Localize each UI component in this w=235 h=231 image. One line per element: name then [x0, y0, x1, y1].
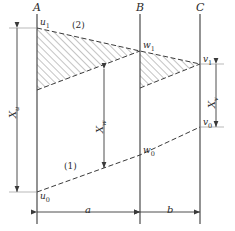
point-label-v0-sub: 0: [208, 122, 212, 130]
station-label-C: C: [196, 2, 204, 13]
point-label-v1: v1: [203, 55, 212, 66]
point-label-w1: w1: [143, 41, 155, 52]
dimension-label-Xu-sub: u: [13, 107, 21, 111]
dimension-label-a: a: [85, 205, 91, 215]
dimension-label-Xv: Xv: [207, 97, 220, 108]
dimension-label-Xu-base: X: [7, 111, 18, 118]
station-label-B: B: [136, 2, 144, 13]
technical-figure: A B C u1 u0 w1 w0 v1 v0 (1) (2) Xu Xw Xv…: [0, 0, 235, 231]
dimension-label-Xw: Xw: [95, 120, 108, 133]
dimension-label-b: b: [167, 205, 173, 215]
dimension-label-Xw-base: X: [94, 126, 105, 133]
curve-1-lower: [37, 127, 200, 192]
hatched-region-BC: [140, 51, 200, 88]
point-label-w0-sub: 0: [151, 150, 155, 158]
curve-label-1: (1): [64, 162, 77, 171]
point-label-w1-sub: 1: [151, 45, 155, 53]
point-label-w0-base: w: [143, 145, 151, 155]
point-label-w0: w0: [143, 146, 155, 157]
diagram-canvas: [0, 0, 235, 231]
point-label-u0-sub: 0: [46, 196, 50, 204]
station-label-A: A: [33, 2, 41, 13]
dimension-label-Xu: Xu: [8, 107, 21, 118]
curve-label-2: (2): [72, 21, 85, 30]
hatched-region-AB: [37, 28, 140, 90]
dimension-label-Xw-sub: w: [100, 120, 108, 126]
point-label-u0: u0: [40, 192, 50, 203]
point-label-v1-sub: 1: [208, 59, 212, 67]
point-label-u1-sub: 1: [46, 22, 50, 30]
dimension-label-Xv-sub: v: [212, 97, 220, 101]
dimension-label-Xv-base: X: [206, 101, 217, 108]
point-label-u1: u1: [40, 18, 50, 29]
point-label-w1-base: w: [143, 40, 151, 50]
point-label-v0: v0: [203, 118, 212, 129]
